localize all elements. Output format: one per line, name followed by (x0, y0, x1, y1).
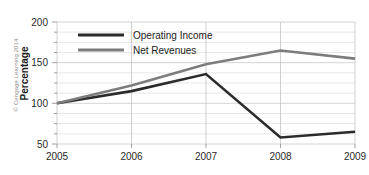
x-axis-ticks (57, 144, 355, 148)
legend-label: Net Revenues (133, 45, 196, 56)
line-chart-svg: 20015010050 20052006200720082009 Operati… (0, 0, 369, 175)
y-axis-tick-labels: 20015010050 (31, 17, 48, 150)
chart-figure: © Cengage Learning 2014 Percentage 20015… (0, 0, 369, 175)
plot-area: 20015010050 20052006200720082009 Operati… (0, 0, 369, 175)
y-axis-ticks (52, 22, 57, 144)
y-tick-label: 150 (31, 57, 48, 68)
x-tick-label: 2005 (46, 151, 69, 162)
legend-label: Operating Income (133, 30, 213, 41)
x-tick-label: 2007 (195, 151, 218, 162)
y-tick-label: 200 (31, 17, 48, 28)
y-tick-label: 100 (31, 98, 48, 109)
y-tick-label: 50 (37, 139, 49, 150)
x-tick-label: 2009 (344, 151, 367, 162)
x-tick-label: 2006 (120, 151, 143, 162)
x-axis-tick-labels: 20052006200720082009 (46, 151, 367, 162)
x-tick-label: 2008 (269, 151, 292, 162)
